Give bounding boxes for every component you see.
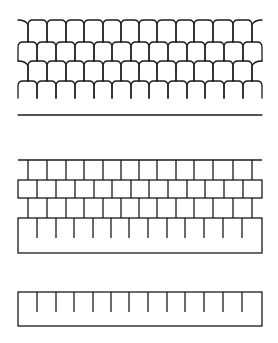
shingle-tile <box>213 20 233 42</box>
shingle-tile <box>94 81 112 98</box>
shingle-tile <box>84 61 103 81</box>
shingle-tile <box>18 42 37 61</box>
shingle-tile <box>121 20 139 42</box>
shingle-edge <box>252 20 262 42</box>
shingle-edge <box>18 61 28 81</box>
shingle-tile <box>131 42 149 61</box>
shingle-tile <box>168 81 187 98</box>
shingle-tile <box>149 81 168 98</box>
shingle-tile <box>168 42 187 61</box>
shingle-tile <box>28 20 47 42</box>
shingle-tile <box>187 81 205 98</box>
shingle-tile <box>121 61 139 81</box>
shingle-tile <box>213 61 233 81</box>
curved-shingle-pattern <box>18 20 262 115</box>
shingle-tile <box>56 81 75 98</box>
shingle-tile <box>112 42 131 61</box>
shingle-edge <box>18 20 28 42</box>
shingle-tile <box>75 81 94 98</box>
shingle-tile <box>28 61 47 81</box>
shingle-tile <box>194 61 213 81</box>
shingle-tile <box>243 81 262 98</box>
shingle-tile <box>243 42 262 61</box>
block-row-box <box>18 180 262 198</box>
shingle-tile <box>103 61 121 81</box>
shingle-tile <box>233 61 252 81</box>
shingle-tile <box>139 61 157 81</box>
shingle-tile <box>18 81 37 98</box>
shingle-tile <box>139 20 157 42</box>
shingle-tile <box>157 61 176 81</box>
shingle-tile <box>75 42 94 61</box>
shingle-tile <box>131 81 149 98</box>
shingle-edge <box>252 61 262 81</box>
ruler-box <box>18 292 262 326</box>
shingle-tile <box>112 81 131 98</box>
shingle-tile <box>205 81 224 98</box>
shingle-tile <box>157 20 176 42</box>
shingle-tile <box>176 61 194 81</box>
rectangular-block-pattern <box>18 160 262 253</box>
shingle-tile <box>233 20 252 42</box>
shingle-tile <box>84 20 103 42</box>
shingle-tile <box>224 81 243 98</box>
shingle-tile <box>66 20 84 42</box>
shingle-tile <box>205 42 224 61</box>
shingle-tile <box>149 42 168 61</box>
shingle-tile <box>47 20 66 42</box>
shingle-tile <box>37 81 56 98</box>
ruler-strip <box>18 292 262 326</box>
shingle-tile <box>56 42 75 61</box>
shingle-tile <box>94 42 112 61</box>
shingle-tile <box>37 42 56 61</box>
shingle-tile <box>176 20 194 42</box>
base-strip <box>18 218 262 253</box>
shingle-tile <box>224 42 243 61</box>
pattern-diagram <box>0 0 278 343</box>
shingle-tile <box>103 20 121 42</box>
shingle-tile <box>187 42 205 61</box>
shingle-tile <box>47 61 66 81</box>
shingle-tile <box>66 61 84 81</box>
shingle-tile <box>194 20 213 42</box>
